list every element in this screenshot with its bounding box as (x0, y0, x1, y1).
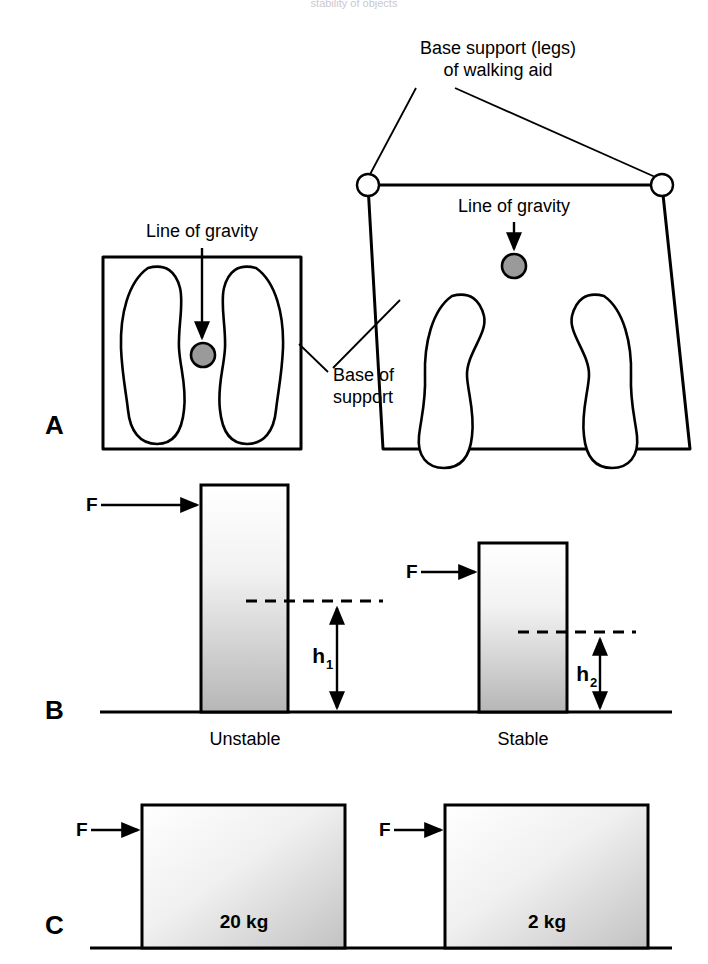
base-of-support-label-line2: support (333, 387, 393, 407)
h1-subscript: 1 (326, 657, 333, 672)
panel-c: C 20 kg F 2 kg F (45, 805, 672, 948)
base-support-leader-right (455, 88, 662, 180)
base-support-label-line1: Base support (legs) (420, 38, 576, 58)
center-of-gravity-dot-left (191, 343, 215, 367)
walking-aid-leg-left (357, 174, 379, 196)
center-of-gravity-dot-right (502, 254, 526, 278)
walking-aid-trapezoid (368, 185, 690, 449)
stable-block (479, 543, 567, 712)
panel-c-letter: C (45, 910, 64, 940)
force-label-c-left: F (76, 819, 88, 840)
panel-a-letter: A (45, 410, 64, 440)
force-label-b-left: F (86, 494, 98, 515)
h2-subscript: 2 (590, 675, 597, 690)
caption-stable: Stable (497, 729, 548, 749)
base-support-leader-left (367, 88, 416, 180)
base-of-support-label-line1: Base of (333, 365, 395, 385)
mass-label-20kg: 20 kg (220, 911, 269, 932)
top-caption: stability of objects (311, 0, 398, 9)
base-support-label-line2: of walking aid (443, 60, 552, 80)
figure-root: stability of objects A Base support (leg… (0, 0, 708, 964)
base-of-support-leader-to-trapezoid (333, 300, 400, 368)
mass-label-2kg: 2 kg (528, 911, 566, 932)
foot-left-square (121, 267, 185, 444)
force-label-b-right: F (406, 561, 418, 582)
panel-a: A Base support (legs) of walking aid Lin… (45, 38, 690, 468)
unstable-block (201, 485, 288, 712)
foot-right-trapezoid (572, 295, 638, 468)
panel-b-letter: B (45, 695, 64, 725)
force-label-c-right: F (379, 819, 391, 840)
base-of-support-leader-to-square (299, 344, 328, 372)
walking-aid-leg-right (651, 174, 673, 196)
h1-label: h (312, 644, 325, 667)
panel-b: B F h 1 F h 2 U (45, 485, 672, 749)
figure-canvas: stability of objects A Base support (leg… (0, 0, 708, 964)
line-of-gravity-label-right: Line of gravity (458, 196, 570, 216)
caption-unstable: Unstable (209, 729, 280, 749)
h2-label: h (576, 662, 589, 685)
line-of-gravity-label-left: Line of gravity (146, 221, 258, 241)
foot-right-square (219, 267, 283, 444)
foot-left-trapezoid (419, 295, 485, 468)
